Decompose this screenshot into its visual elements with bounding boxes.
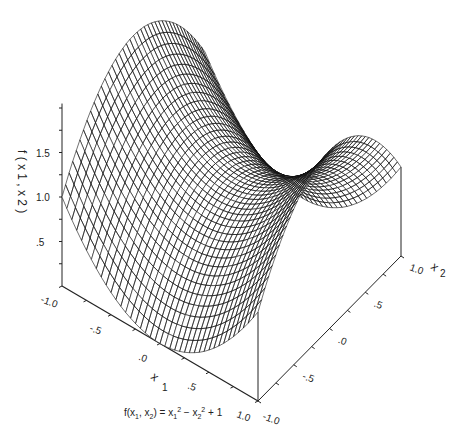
x1-axis-title-sub: 1 xyxy=(162,382,168,393)
x2-tick xyxy=(365,292,368,294)
x1-tick xyxy=(84,300,87,302)
x1-tick-label: -1.0 xyxy=(39,294,59,310)
x2-tick xyxy=(294,365,297,367)
x2-tick-label: 1.0 xyxy=(408,262,425,277)
x1-tick-label: 1.0 xyxy=(235,409,252,424)
x2-tick-label: -1.0 xyxy=(261,411,281,427)
x2-tick xyxy=(276,383,279,385)
x1-tick xyxy=(59,286,62,288)
x1-axis-title: x xyxy=(148,370,162,385)
x1-tick xyxy=(157,344,160,346)
x2-tick-label: .5 xyxy=(373,298,385,311)
x2-tick xyxy=(258,401,261,403)
z-tick-label: 1.0 xyxy=(36,192,50,203)
z-tick-label: 1.5 xyxy=(36,148,50,159)
x1-tick xyxy=(206,372,209,374)
x1-tick-label: .5 xyxy=(186,380,198,393)
x1-tick-label: .0 xyxy=(137,351,149,364)
x2-tick xyxy=(312,347,315,349)
x1-tick xyxy=(231,387,234,389)
x2-tick xyxy=(401,256,404,258)
function-caption: f(x1, x2) = x12 − x22 + 1 xyxy=(124,406,222,420)
surface-plot: .51.01.5-1.0-.5.0.51.0-1.0-.5.0.51.0x1x2… xyxy=(0,0,465,443)
x1-tick xyxy=(133,329,136,331)
surface-mesh xyxy=(62,21,401,353)
x2-tick-label: .0 xyxy=(337,334,349,347)
x2-tick xyxy=(347,310,350,312)
x1-tick xyxy=(182,358,185,360)
x2-tick-label: -.5 xyxy=(301,370,316,384)
z-tick-label: .5 xyxy=(36,237,45,248)
x1-tick-label: -.5 xyxy=(88,322,103,336)
x1-tick xyxy=(255,401,258,403)
x2-axis-title-sub: 2 xyxy=(440,268,446,279)
z-axis-title: f ( x 1 , x 2 ) xyxy=(15,150,29,213)
x1-tick xyxy=(108,315,111,317)
x2-tick xyxy=(330,329,333,331)
x2-tick xyxy=(383,274,386,276)
